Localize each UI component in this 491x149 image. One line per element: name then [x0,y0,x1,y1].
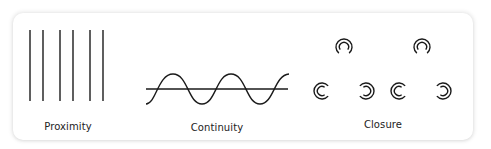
closure-arc [360,83,374,99]
closure-label: Closure [364,119,402,130]
closure-arc [417,42,426,49]
continuity-wave-icon [146,74,289,104]
closure-arc [339,42,348,49]
closure-circles-icon [314,39,451,99]
closure-arc [437,83,451,99]
closure-arc [414,39,430,53]
closure-arc [314,83,328,99]
proximity-lines-icon [30,30,103,101]
closure-arc [336,39,352,53]
closure-arc [317,86,324,95]
closure-arc [394,86,401,95]
continuity-label: Continuity [191,122,243,133]
closure-arc [391,83,405,99]
closure-arc [363,86,370,95]
proximity-label: Proximity [44,121,92,132]
closure-arc [440,86,447,95]
